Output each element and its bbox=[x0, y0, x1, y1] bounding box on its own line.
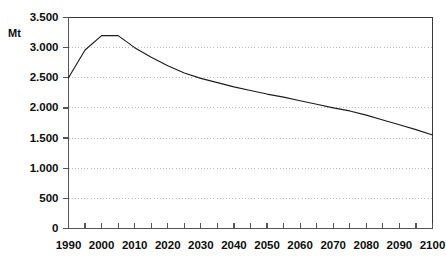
x-tick-label-2090: 2090 bbox=[387, 239, 413, 251]
x-tick-label-2000: 2000 bbox=[89, 239, 115, 251]
x-tick-label-2040: 2040 bbox=[221, 239, 247, 251]
y-tick-label-1000: 1.000 bbox=[30, 162, 59, 174]
x-tick-label-1990: 1990 bbox=[56, 239, 82, 251]
x-tick-label-2030: 2030 bbox=[188, 239, 214, 251]
chart-canvas: 05001.0001.5002.0002.5003.0003.500 19902… bbox=[0, 0, 446, 257]
y-axis-unit-label: Mt bbox=[8, 27, 21, 39]
y-tick-label-1500: 1.500 bbox=[30, 132, 59, 144]
x-tick-label-2100: 2100 bbox=[420, 239, 446, 251]
x-tick-label-2080: 2080 bbox=[354, 239, 380, 251]
y-tick-label-3000: 3.000 bbox=[30, 41, 59, 53]
y-tick-label-2500: 2.500 bbox=[30, 71, 59, 83]
line-chart: 05001.0001.5002.0002.5003.0003.500 19902… bbox=[0, 0, 446, 257]
x-tick-label-2020: 2020 bbox=[155, 239, 181, 251]
chart-background bbox=[0, 0, 446, 257]
y-tick-label-500: 500 bbox=[39, 192, 58, 204]
y-tick-label-2000: 2.000 bbox=[30, 101, 59, 113]
y-tick-label-3500: 3.500 bbox=[30, 11, 59, 23]
unit-label: Mt bbox=[8, 27, 21, 39]
x-tick-label-2060: 2060 bbox=[287, 239, 313, 251]
x-tick-label-2050: 2050 bbox=[254, 239, 280, 251]
x-tick-label-2010: 2010 bbox=[122, 239, 148, 251]
y-tick-label-0: 0 bbox=[52, 222, 58, 234]
x-tick-label-2070: 2070 bbox=[320, 239, 346, 251]
